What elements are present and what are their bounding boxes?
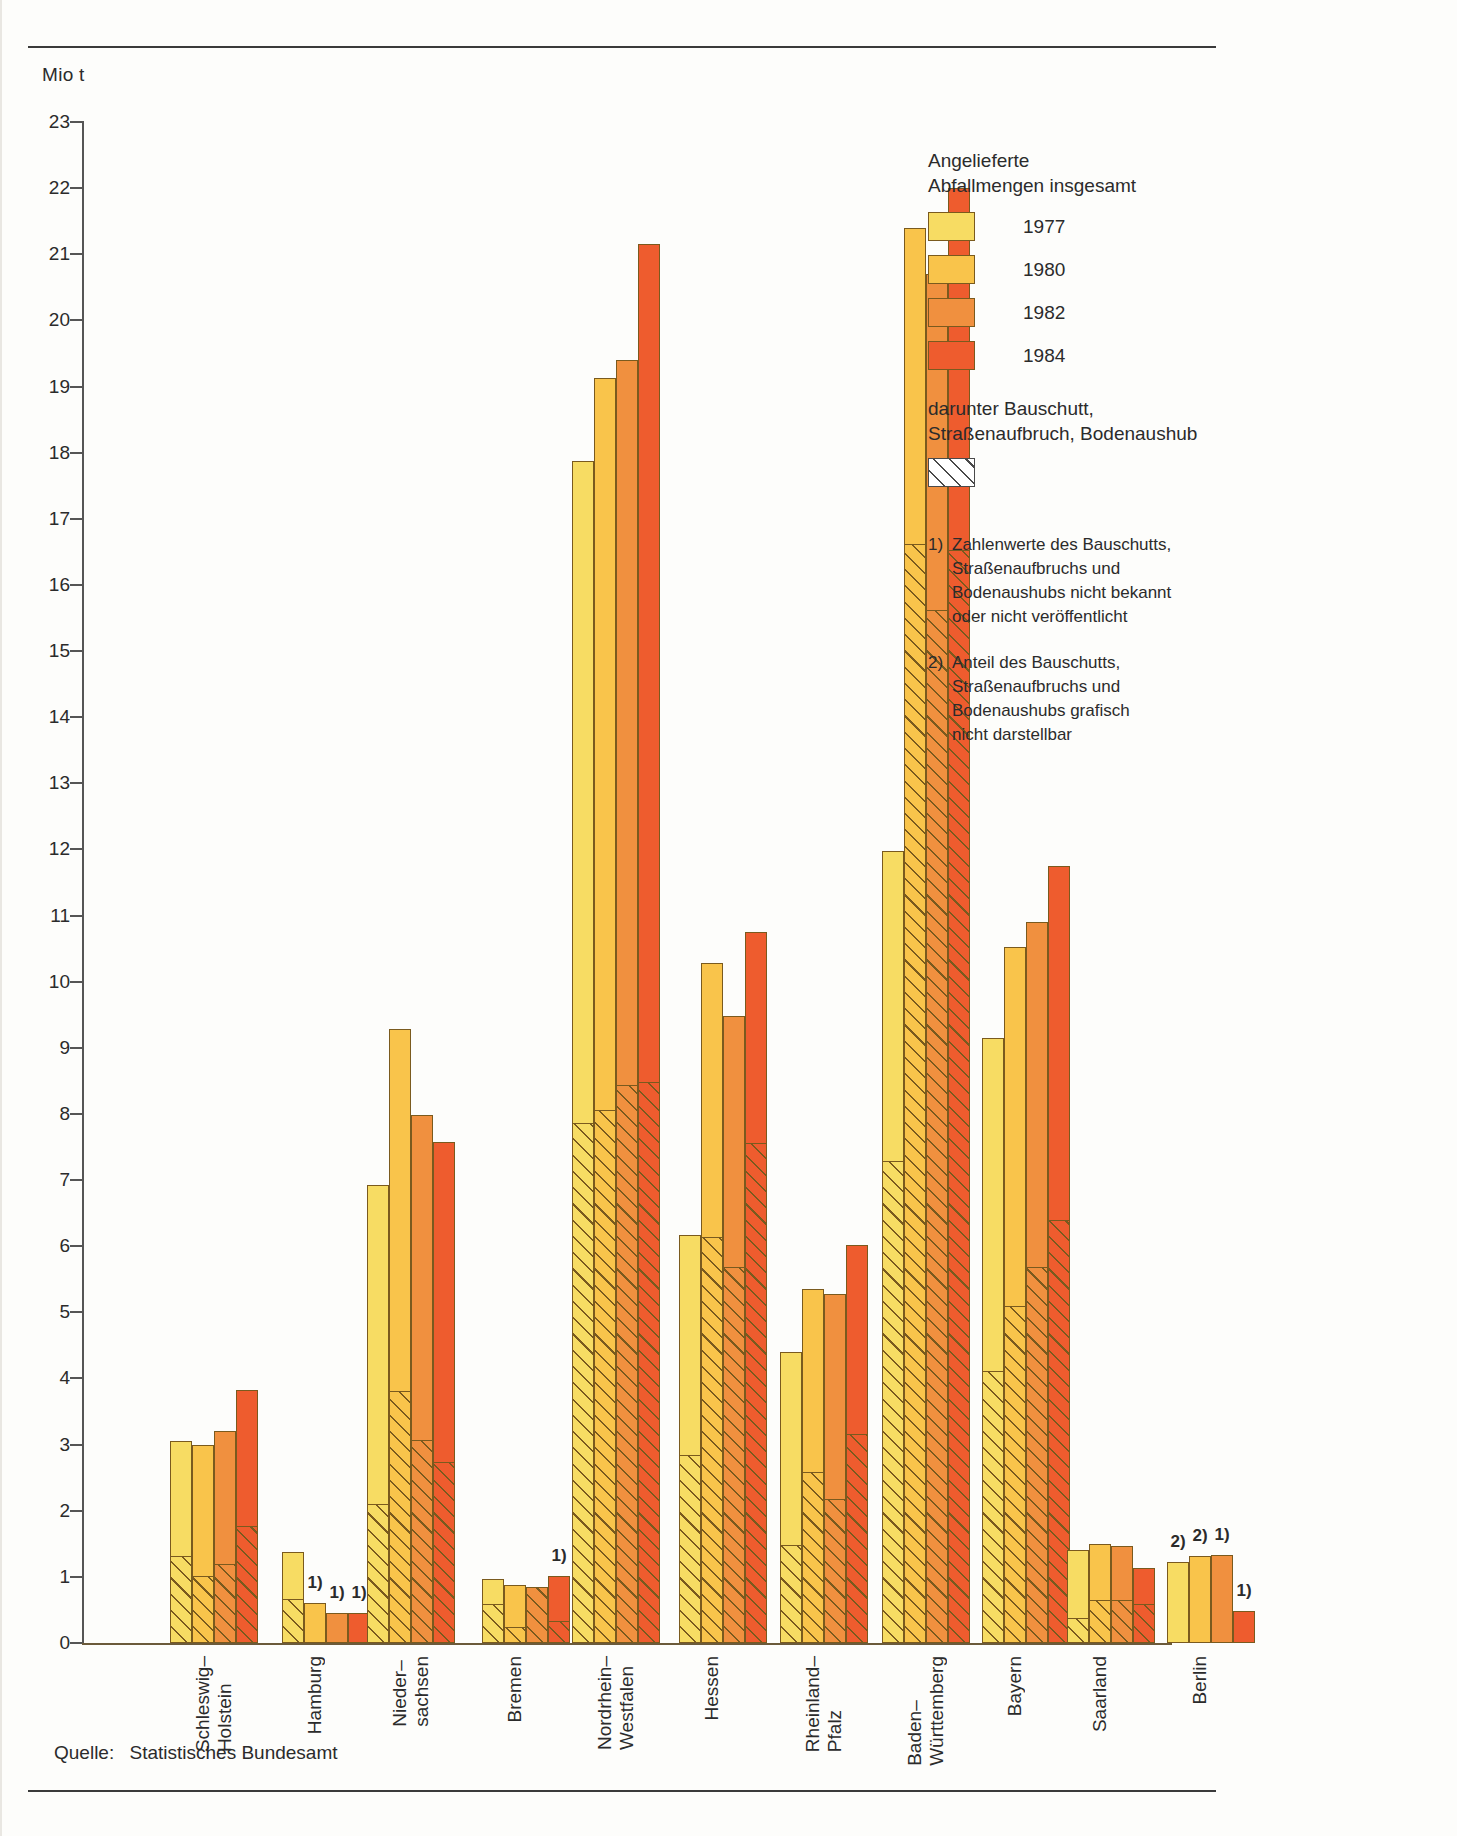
bar-hatched-portion: [1005, 1306, 1025, 1642]
bar-hatched-portion: [617, 1085, 637, 1642]
bar: [824, 1294, 846, 1643]
legend-swatch: [928, 298, 975, 327]
bar: [780, 1352, 802, 1643]
y-axis-tick-label: 6: [30, 1235, 70, 1257]
bar: [1189, 1556, 1211, 1643]
bar: [236, 1390, 258, 1643]
bar-hatched-portion: [434, 1462, 454, 1642]
footnote-2: 2)Anteil des Bauschutts, Straßenaufbruch…: [928, 651, 1218, 747]
legend-item-1980[interactable]: 1980: [928, 255, 1218, 284]
x-axis-category-label: Baden– Württemberg: [904, 1656, 948, 1766]
y-axis-tick-label: 8: [30, 1103, 70, 1125]
bar-hatched-portion: [639, 1082, 659, 1642]
footnote-text: Anteil des Bauschutts, Straßenaufbruchs …: [952, 651, 1130, 747]
footnote-number: 1): [928, 533, 952, 629]
bar-group: [780, 122, 868, 1643]
bar-hatched-portion: [549, 1621, 569, 1642]
y-axis-tick-label: 17: [30, 508, 70, 530]
y-axis-tick-label: 23: [30, 111, 70, 133]
bar-hatched-portion: [1112, 1600, 1132, 1642]
source-line: Quelle: Statistisches Bundesamt: [54, 1742, 338, 1764]
legend-series-list: 1977198019821984: [928, 212, 1218, 370]
legend-item-1982[interactable]: 1982: [928, 298, 1218, 327]
bar-hatched-portion: [702, 1237, 722, 1642]
y-axis-tick-label: 11: [30, 905, 70, 927]
legend-swatch: [928, 255, 975, 284]
legend-swatch: [928, 212, 975, 241]
y-axis-tick-label: 9: [30, 1037, 70, 1059]
legend-item-1984[interactable]: 1984: [928, 341, 1218, 370]
bar: [1089, 1544, 1111, 1643]
bar: [982, 1038, 1004, 1643]
bar-hatched-portion: [368, 1504, 388, 1642]
bar-hatched-portion: [883, 1161, 903, 1642]
bar: [679, 1235, 701, 1643]
x-axis-category-label: Schleswig– Holstein: [192, 1656, 236, 1752]
y-axis-tick-label: 0: [30, 1632, 70, 1654]
y-axis-tick-label: 16: [30, 574, 70, 596]
bar-hatched-portion: [283, 1599, 303, 1642]
bar-hatched-portion: [1134, 1604, 1154, 1642]
chart-page: Mio t 0123456789101112131415161718192021…: [0, 0, 1457, 1836]
bar: [723, 1016, 745, 1643]
bar-hatched-portion: [390, 1391, 410, 1642]
x-axis-category-label: Nieder– sachsen: [389, 1656, 433, 1727]
bar: [367, 1185, 389, 1643]
x-axis-category-label: Nordrhein– Westfalen: [594, 1656, 638, 1750]
legend-label: 1977: [1023, 216, 1065, 238]
bar: [904, 228, 926, 1643]
bar-hatched-portion: [171, 1556, 191, 1642]
footnote-1: 1)Zahlenwerte des Bauschutts, Straßenauf…: [928, 533, 1218, 629]
bar: [482, 1579, 504, 1643]
legend-item-1977[interactable]: 1977: [928, 212, 1218, 241]
x-axis-category-label: Berlin: [1189, 1656, 1211, 1705]
x-axis-category-label: Rheinland– Pfalz: [802, 1656, 846, 1752]
bar-hatched-portion: [215, 1564, 235, 1642]
legend: Angelieferte Abfallmengen insgesamt 1977…: [928, 148, 1218, 769]
bar-hatched-portion: [746, 1143, 766, 1642]
bar-hatched-portion: [412, 1440, 432, 1642]
bar-group: [482, 122, 570, 1643]
footnotes: 1)Zahlenwerte des Bauschutts, Straßenauf…: [928, 533, 1218, 747]
bottom-rule: [28, 1790, 1216, 1792]
x-axis-line: [82, 1643, 1172, 1645]
bar: [1211, 1555, 1233, 1643]
bar: [846, 1245, 868, 1643]
legend-hatch-title: darunter Bauschutt, Straßenaufbruch, Bod…: [928, 396, 1218, 446]
bar-hatched-portion: [905, 544, 925, 1642]
bar-hatched-portion: [1049, 1220, 1069, 1642]
y-axis-tick-label: 13: [30, 772, 70, 794]
legend-title: Angelieferte Abfallmengen insgesamt: [928, 148, 1218, 198]
y-axis-tick-label: 3: [30, 1434, 70, 1456]
bar-hatched-portion: [1090, 1600, 1110, 1642]
y-axis-unit-label: Mio t: [42, 64, 85, 86]
bar: [433, 1142, 455, 1643]
bar: [594, 378, 616, 1643]
y-axis-tick-label: 4: [30, 1367, 70, 1389]
bar: [1111, 1546, 1133, 1643]
bar-group: [679, 122, 767, 1643]
bar: [638, 244, 660, 1643]
x-axis-category-label: Bayern: [1004, 1656, 1026, 1716]
x-axis-category-label: Saarland: [1089, 1656, 1111, 1732]
legend-swatch: [928, 341, 975, 370]
bar: [389, 1029, 411, 1643]
y-axis-tick-label: 21: [30, 243, 70, 265]
bar-hatched-portion: [237, 1526, 257, 1642]
bar-group: [282, 122, 370, 1643]
bar: [548, 1576, 570, 1643]
bar: [1133, 1568, 1155, 1643]
bar-hatched-portion: [680, 1455, 700, 1642]
bar-hatched-portion: [595, 1110, 615, 1642]
bar: [304, 1603, 326, 1643]
bar: [1004, 947, 1026, 1643]
bar: [170, 1441, 192, 1643]
bar-hatched-portion: [573, 1123, 593, 1642]
y-axis-tick-label: 22: [30, 177, 70, 199]
bar-hatched-portion: [505, 1627, 525, 1642]
y-axis-tick-labels: 01234567891011121314151617181920212223: [26, 122, 70, 1645]
bar: [572, 461, 594, 1643]
bar: [411, 1115, 433, 1643]
bar: [1026, 922, 1048, 1643]
bar: [802, 1289, 824, 1643]
